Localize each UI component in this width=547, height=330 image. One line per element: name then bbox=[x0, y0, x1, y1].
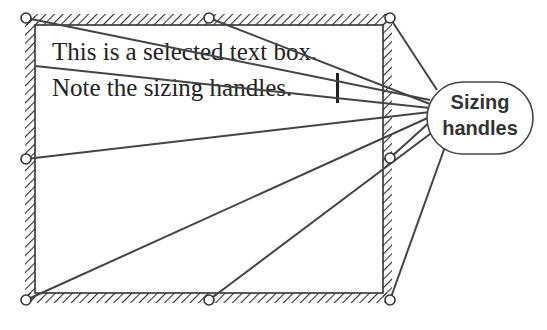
text-box-line-2: Note the sizing handles. bbox=[52, 74, 292, 101]
handle-middle-left[interactable] bbox=[21, 154, 31, 164]
text-box-line-1: This is a selected text box. bbox=[52, 38, 317, 65]
callout-line-2: handles bbox=[442, 117, 518, 139]
handle-top-left[interactable] bbox=[21, 13, 31, 23]
handle-bottom-left[interactable] bbox=[21, 295, 31, 305]
handle-top-right[interactable] bbox=[385, 13, 395, 23]
callout-line-1: Sizing bbox=[451, 91, 510, 113]
handle-bottom-right[interactable] bbox=[385, 295, 395, 305]
diagram-canvas: This is a selected text box. Note the si… bbox=[0, 0, 547, 330]
handle-middle-right[interactable] bbox=[385, 153, 395, 163]
handle-top-middle[interactable] bbox=[204, 13, 214, 23]
handle-bottom-middle[interactable] bbox=[204, 295, 214, 305]
